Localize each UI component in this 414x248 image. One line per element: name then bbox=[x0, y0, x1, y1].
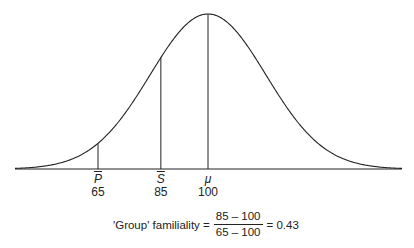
formula-fraction: 85 – 100 65 – 100 bbox=[214, 210, 263, 239]
marker-value-p: 65 bbox=[91, 186, 104, 199]
formula-result: = 0.43 bbox=[267, 219, 299, 231]
marker-value-s: 85 bbox=[154, 186, 167, 199]
marker-label-mu: μ 100 bbox=[198, 173, 218, 199]
formula-denominator: 65 – 100 bbox=[214, 225, 263, 239]
marker-value-mu: 100 bbox=[198, 186, 218, 199]
marker-label-s: S 85 bbox=[154, 173, 167, 199]
formula-numerator: 85 – 100 bbox=[214, 210, 263, 225]
formula-label: 'Group' familiality = bbox=[113, 219, 210, 231]
marker-label-p: P 65 bbox=[91, 173, 104, 199]
familiality-formula: 'Group' familiality = 85 – 100 65 – 100 … bbox=[113, 210, 299, 239]
